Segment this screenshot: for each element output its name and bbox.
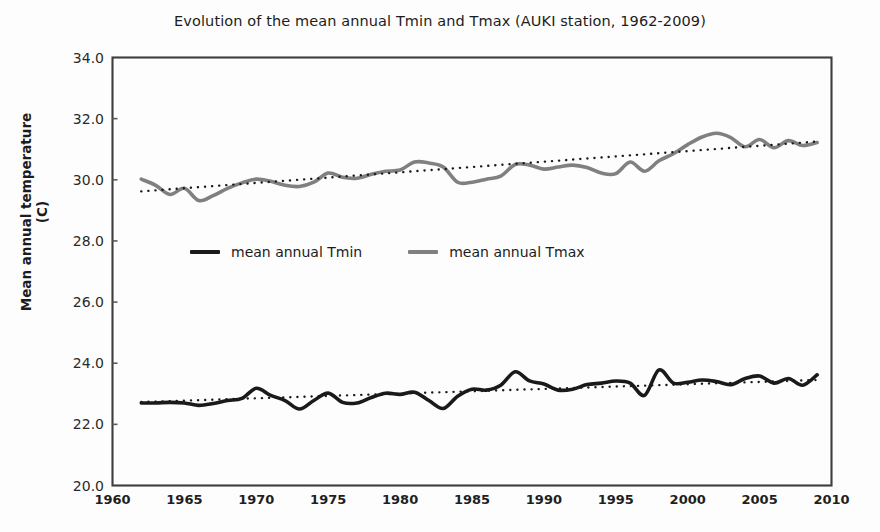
- plot-area: [0, 0, 880, 532]
- chart-legend: mean annual Tmin mean annual Tmax: [190, 244, 585, 260]
- legend-swatch-tmax: [408, 250, 438, 254]
- plot-frame: [113, 58, 832, 486]
- series-line: [141, 133, 817, 200]
- chart-figure: Evolution of the mean annual Tmin and Tm…: [0, 0, 880, 532]
- legend-swatch-tmin: [190, 250, 220, 254]
- legend-label-tmax: mean annual Tmax: [449, 244, 584, 260]
- legend-label-tmin: mean annual Tmin: [231, 244, 362, 260]
- data-series-layer: [141, 133, 817, 409]
- legend-item-tmax: mean annual Tmax: [408, 244, 584, 260]
- legend-item-tmin: mean annual Tmin: [190, 244, 362, 260]
- series-line: [141, 370, 817, 409]
